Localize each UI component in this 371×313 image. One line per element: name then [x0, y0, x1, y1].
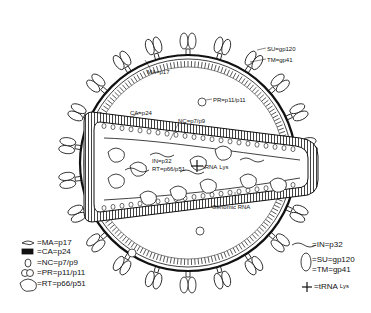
legend-left-4: =RT=p66/p51	[37, 280, 86, 288]
legend-left-2: =NC=p7/p9	[37, 259, 78, 267]
spike-icon	[58, 137, 82, 156]
label-ma: MA=p17	[147, 69, 170, 75]
spike-icon	[264, 228, 291, 254]
spike-icon	[85, 72, 112, 98]
label-genomic-rna: Genomic RNA	[212, 204, 250, 210]
legend-trna-sup: Lys	[340, 283, 349, 289]
spike-icon	[58, 170, 82, 189]
nc-icon	[25, 259, 31, 267]
trna-icon	[302, 282, 312, 292]
spike-icon	[180, 271, 196, 293]
legend-left-3: =PR=p11/p11	[37, 269, 85, 277]
label-nc: NC=p7/p9	[178, 118, 205, 124]
spike-icon	[111, 49, 136, 76]
label-tm: TM=gp41	[267, 57, 293, 63]
spike-icon	[240, 250, 265, 277]
ma-icon	[22, 241, 34, 245]
hiv-virion-diagram: SU=gp120 TM=gp41 MA=p17 PR=p11/p11 CA=p2…	[0, 0, 371, 313]
label-trna: tRNALys	[203, 164, 228, 170]
label-su: SU=gp120	[267, 46, 296, 52]
label-rt: RT=p66/p51	[152, 166, 185, 172]
legend-right-1: =SU=gp120	[312, 256, 355, 264]
legend-right-2: =TM=gp41	[312, 266, 351, 274]
label-ca: CA=p24	[130, 110, 152, 116]
label-pr: PR=p11/p11	[213, 97, 246, 103]
legend-trna-text: =tRNA	[314, 282, 338, 291]
spike-icon	[85, 228, 112, 254]
spike-icon	[240, 49, 265, 76]
label-trna-text: tRNA	[203, 164, 217, 170]
ca-icon	[22, 249, 33, 254]
rt-icon	[20, 279, 36, 291]
label-trna-sup: Lys	[219, 164, 228, 170]
legend-left-0: =MA=p17	[37, 239, 72, 247]
spike-icon	[180, 33, 196, 55]
su-tm-icon	[301, 253, 311, 271]
legend-right-0: =IN=p32	[312, 241, 343, 249]
legend-left-1: =CA=p24	[37, 248, 71, 256]
legend-right-3: =tRNALys	[314, 283, 349, 291]
label-in: IN=p32	[152, 158, 172, 164]
spike-icon	[264, 72, 291, 98]
